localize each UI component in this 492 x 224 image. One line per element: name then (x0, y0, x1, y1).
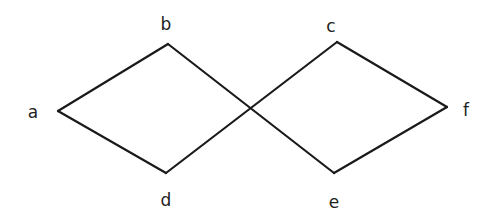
node-label-b: b (161, 14, 172, 34)
node-label-c: c (326, 16, 335, 36)
node-label-e: e (329, 192, 339, 212)
edges-group (58, 42, 447, 173)
node-label-a: a (28, 102, 38, 122)
node-label-f: f (463, 100, 470, 120)
labels-group: abcdef (28, 14, 470, 212)
graph-diagram: abcdef (0, 0, 492, 224)
edge-e-f (334, 107, 447, 173)
edge-a-b (58, 44, 168, 111)
edge-a-d (58, 111, 166, 173)
node-label-d: d (161, 190, 172, 210)
edge-c-f (337, 42, 447, 107)
